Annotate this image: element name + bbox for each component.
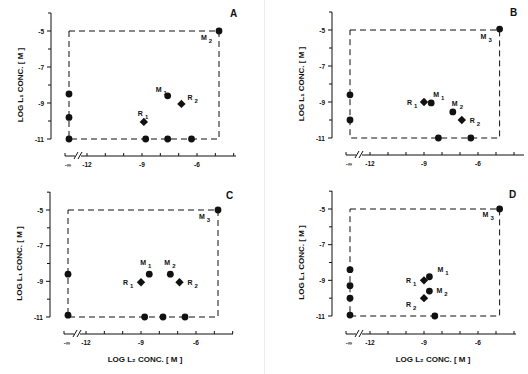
circle-marker [66, 91, 73, 98]
panel-a: -5-7-9-11LOG L₁ CONC. [ M ]-∞-12-9-6M1R2… [16, 8, 237, 168]
diamond-marker [420, 294, 428, 302]
point-label: M3 [483, 211, 495, 221]
x-tick-label: -6 [475, 339, 481, 346]
x-axis-label: LOG L₂ CONC. [ M ] [108, 355, 183, 364]
point-label: M1 [156, 86, 168, 96]
data-points: M1R2R1M2 [66, 28, 223, 143]
y-axis: -5-7-9-11LOG L₁ CONC. [ M ] [15, 192, 50, 321]
circle-marker [142, 136, 149, 143]
diamond-marker [137, 278, 145, 286]
circle-marker [188, 136, 195, 143]
circle-marker [426, 288, 433, 295]
circle-marker [347, 312, 354, 319]
x-axis: -∞-12-9-6LOG L₂ CONC. [ M ] [346, 330, 516, 364]
data-points: R1M1M2R2M3 [347, 206, 503, 320]
point-label: R2 [187, 94, 198, 104]
point-label: R1 [123, 279, 134, 289]
circle-marker [66, 114, 73, 121]
circle-marker [347, 91, 354, 98]
circle-marker [65, 271, 72, 278]
point-label: M3 [199, 213, 211, 223]
circle-marker [431, 313, 438, 320]
y-axis-label: LOG L₁ CONC. [ M ] [297, 225, 306, 300]
circle-marker [141, 314, 148, 321]
y-tick-label: -5 [319, 27, 325, 34]
y-tick-label: -9 [319, 99, 325, 106]
x-tick-label: -12 [365, 339, 375, 346]
x-tick-label: -∞ [65, 162, 71, 168]
circle-marker [65, 312, 72, 319]
y-tick-label: -5 [319, 206, 325, 213]
x-tick-label: -9 [421, 160, 427, 167]
point-label: M1 [433, 91, 445, 101]
point-label: M1 [140, 259, 152, 269]
panel-divider [264, 0, 265, 374]
point-label: R2 [470, 117, 481, 127]
point-label: R1 [407, 99, 418, 109]
x-axis: -∞-12-9-6 [65, 152, 236, 168]
x-tick-label: -∞ [346, 161, 352, 167]
x-tick-label: -12 [82, 161, 92, 168]
x-tick-label: -6 [194, 161, 200, 168]
panel-b: -5-7-9-11LOG L₁ CONC. [ M ]-∞-12-9-6R1M1… [297, 7, 524, 167]
panel-title: C [226, 190, 233, 201]
point-label: M3 [481, 33, 493, 43]
point-label: M2 [452, 100, 464, 110]
x-tick-label: -9 [421, 339, 427, 346]
x-tick-label: -12 [365, 160, 375, 167]
panel-title: A [230, 8, 237, 19]
y-tick-label: -7 [319, 241, 325, 248]
circle-marker [146, 271, 153, 278]
circle-marker [347, 266, 354, 273]
circle-marker [347, 295, 354, 302]
x-tick-label: -12 [81, 339, 91, 346]
panel-c: -5-7-9-11LOG L₁ CONC. [ M ]-∞-12-9-6LOG … [15, 190, 233, 364]
y-axis: -5-7-9-11LOG L₁ CONC. [ M ] [297, 191, 332, 320]
x-tick-label: -6 [475, 160, 481, 167]
diamond-marker [458, 116, 466, 124]
y-tick-label: -5 [37, 207, 43, 214]
circle-marker [449, 109, 456, 116]
figure-four-panel-scatter: -5-7-9-11LOG L₁ CONC. [ M ]-∞-12-9-6M1R2… [0, 0, 528, 374]
y-tick-label: -11 [316, 313, 325, 320]
y-axis: -5-7-9-11LOG L₁ CONC. [ M ] [16, 13, 51, 143]
circle-marker [167, 271, 174, 278]
y-axis-label: LOG L₁ CONC. [ M ] [16, 47, 25, 122]
y-axis-label: LOG L₁ CONC. [ M ] [15, 226, 24, 301]
y-tick-label: -11 [34, 314, 43, 321]
y-tick-label: -7 [38, 64, 44, 71]
circle-marker [182, 314, 189, 321]
circle-marker [66, 136, 73, 143]
circle-marker [467, 135, 474, 142]
point-label: M2 [201, 34, 213, 44]
circle-marker [160, 314, 167, 321]
circle-marker [426, 273, 433, 280]
circle-marker [347, 282, 354, 289]
x-tick-label: -∞ [64, 340, 70, 346]
x-axis-label: LOG L₂ CONC. [ M ] [396, 355, 471, 364]
data-points: R1M1M2R2M3 [347, 26, 503, 142]
y-tick-label: -7 [37, 242, 43, 249]
circle-marker [496, 206, 503, 213]
x-axis: -∞-12-9-6LOG L₂ CONC. [ M ] [64, 330, 233, 364]
y-tick-label: -11 [316, 135, 325, 142]
y-tick-label: -11 [35, 136, 44, 143]
circle-marker [347, 117, 354, 124]
circle-marker [428, 100, 435, 107]
point-label: R2 [188, 279, 199, 289]
y-axis: -5-7-9-11LOG L₁ CONC. [ M ] [297, 12, 332, 142]
circle-marker [435, 135, 442, 142]
circle-marker [216, 28, 223, 35]
diamond-marker [175, 278, 183, 286]
circle-marker [164, 136, 171, 143]
circle-marker [496, 26, 503, 33]
x-axis: -∞-12-9-6 [346, 151, 524, 167]
circle-marker [215, 207, 222, 214]
y-tick-label: -5 [38, 28, 44, 35]
data-points: R1M1M2R2M3 [65, 207, 222, 321]
x-tick-label: -∞ [346, 340, 352, 346]
diamond-marker [420, 98, 428, 106]
point-label: M1 [437, 266, 449, 276]
x-tick-label: -9 [138, 339, 144, 346]
x-tick-label: -9 [139, 161, 145, 168]
